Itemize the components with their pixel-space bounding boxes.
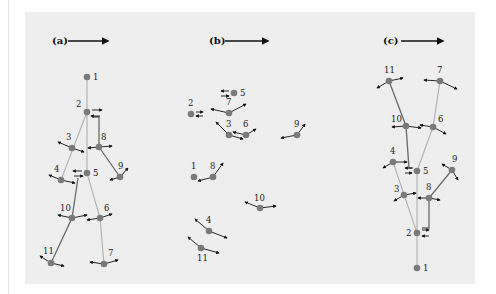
joint-node xyxy=(426,195,433,202)
joint-node xyxy=(210,174,217,181)
joint-label: 9 xyxy=(118,161,123,171)
joint-node xyxy=(206,228,213,235)
joint-label: 5 xyxy=(93,168,98,178)
joint-label: 5 xyxy=(423,166,428,176)
panel-label: (c) xyxy=(383,35,399,46)
joint-node xyxy=(430,124,437,131)
joint-label: 10 xyxy=(60,203,71,213)
joint-node xyxy=(294,132,301,139)
joint-node xyxy=(84,74,91,81)
joint-node xyxy=(386,78,393,85)
joint-node xyxy=(437,78,444,85)
joint-label: 6 xyxy=(438,114,443,124)
joint-label: 2 xyxy=(406,228,411,238)
joint-label: 7 xyxy=(226,97,231,107)
joint-label: 11 xyxy=(384,65,395,75)
skeleton-figure: (a)1238459106117(b)5273691810411(c)11710… xyxy=(0,0,496,294)
panel-b: (b)5273691810411 xyxy=(188,35,305,263)
joint-node xyxy=(101,261,108,268)
joint-node xyxy=(414,230,421,237)
joint-node xyxy=(414,265,421,272)
joint-label: 3 xyxy=(226,119,231,129)
joint-node xyxy=(226,110,233,117)
joint-label: 1 xyxy=(423,263,428,273)
joint-label: 10 xyxy=(254,193,265,203)
joint-label: 4 xyxy=(390,146,395,156)
skeleton-edge xyxy=(99,147,120,177)
joint-label: 2 xyxy=(76,99,81,109)
joint-label: 6 xyxy=(243,119,248,129)
joint-node xyxy=(96,144,103,151)
joint-node xyxy=(84,170,91,177)
joint-node xyxy=(84,109,91,116)
joint-node xyxy=(198,245,205,252)
joint-label: 7 xyxy=(108,248,113,258)
joint-node xyxy=(414,168,421,175)
panel-c: (c)1171064593821 xyxy=(377,35,458,273)
joint-label: 4 xyxy=(54,164,59,174)
joint-label: 3 xyxy=(66,132,71,142)
joint-node xyxy=(48,260,55,267)
joint-label: 5 xyxy=(240,88,245,98)
joint-node xyxy=(97,215,104,222)
joint-node xyxy=(191,174,198,181)
joint-label: 11 xyxy=(43,246,54,256)
joint-label: 2 xyxy=(188,98,193,108)
joint-label: 9 xyxy=(294,119,299,129)
panel-label: (b) xyxy=(209,35,225,46)
joint-node xyxy=(117,174,124,181)
joint-node xyxy=(243,132,250,139)
joint-node xyxy=(69,215,76,222)
joint-node xyxy=(69,145,76,152)
joint-node xyxy=(58,177,65,184)
joint-label: 11 xyxy=(197,253,208,263)
joint-node xyxy=(390,159,397,166)
joint-label: 3 xyxy=(394,184,399,194)
panel-label: (a) xyxy=(52,35,68,46)
joint-node xyxy=(403,123,410,130)
joint-label: 8 xyxy=(101,132,106,142)
joint-label: 8 xyxy=(210,161,215,171)
joint-label: 1 xyxy=(93,72,98,82)
joint-node xyxy=(188,111,195,118)
joint-node xyxy=(401,192,408,199)
skeleton-edge xyxy=(92,117,99,147)
joint-label: 8 xyxy=(426,182,431,192)
joint-node xyxy=(226,132,233,139)
joint-node xyxy=(231,90,238,97)
joint-label: 9 xyxy=(452,154,457,164)
joint-label: 10 xyxy=(391,114,402,124)
joint-node xyxy=(449,167,456,174)
joint-label: 1 xyxy=(191,161,196,171)
joint-label: 6 xyxy=(104,203,109,213)
joint-label: 7 xyxy=(437,65,442,75)
joint-label: 4 xyxy=(206,215,211,225)
joint-node xyxy=(257,205,264,212)
panel-a: (a)1238459106117 xyxy=(40,35,128,267)
